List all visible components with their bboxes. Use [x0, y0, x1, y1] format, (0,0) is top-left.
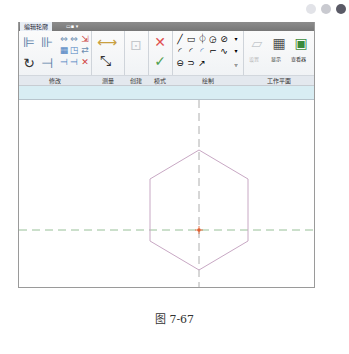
array-icon[interactable]: ▦ [59, 45, 69, 55]
panel-measure: ⟷ ⤡ 测量 [91, 31, 125, 85]
ellipse-icon[interactable]: ⊖ [175, 58, 185, 68]
workplane-viewer-icon[interactable]: ▣ [293, 35, 309, 51]
unpin-icon[interactable]: ⇄ [80, 45, 90, 55]
window-dot-dark[interactable] [336, 4, 346, 14]
set-workplane-label: 设置 [249, 55, 259, 62]
ribbon-tab-bar: 编辑轮廓 ▭▪ ▾ [19, 22, 314, 31]
rotate-icon[interactable]: ↻ [21, 55, 37, 71]
pick-lines-icon[interactable]: ↗ [197, 58, 207, 68]
panel-label-create: 创建 [124, 75, 148, 85]
panel-create: ⊡ 创建 [124, 31, 149, 85]
panel-label-workplane: 工作平面 [243, 75, 314, 85]
workplane-viewer-label: 查看器 [291, 55, 306, 62]
window-dot-light[interactable] [306, 4, 316, 14]
circumscribed-polygon-icon[interactable]: ◶ [208, 34, 218, 44]
panel-label-modify: 修改 [19, 75, 91, 85]
aligned-dimension-icon[interactable]: ⟷ [97, 34, 113, 50]
set-workplane-icon[interactable]: ▱ [249, 35, 265, 51]
move-icon[interactable]: ⇔ [69, 34, 79, 44]
tab-edit-profile[interactable]: 编辑轮廓 [20, 22, 52, 31]
inscribed-polygon-icon[interactable]: ⏀ [197, 34, 207, 44]
panel-modify: ⊫ ⊪ ↻ ⊣ ⇔ ⇔ ⇲ ▦ ◳ ⇄ ⊣ ⊣ ✕ 修改 [19, 31, 92, 85]
copy-icon[interactable]: ⇔ [59, 34, 69, 44]
trim-icon[interactable]: ⊣ [39, 55, 55, 71]
circle-icon[interactable]: ⊘ [219, 34, 229, 44]
sketch-drawing [19, 100, 314, 287]
scale-icon[interactable]: ◳ [69, 45, 79, 55]
panel-mode: ✕ ✓ 模式 [148, 31, 173, 85]
rectangle-icon[interactable]: ▭ [186, 34, 196, 44]
window-controls [306, 4, 346, 14]
tab-minimize-toggle[interactable]: ▭▪ ▾ [63, 23, 81, 30]
panel-label-draw: 绘制 [172, 75, 243, 85]
draw-more-row1-icon[interactable]: ▾ [231, 34, 241, 44]
line-icon[interactable]: ╱ [175, 34, 185, 44]
tangent-arc-icon[interactable]: ◜ [197, 46, 207, 56]
panel-workplane: ▱ 设置 ▦ 显示 ▣ 查看器 工作平面 [243, 31, 314, 85]
fillet-arc-icon[interactable]: ⌐ [208, 46, 218, 56]
ribbon: ⊫ ⊪ ↻ ⊣ ⇔ ⇔ ⇲ ▦ ◳ ⇄ ⊣ ⊣ ✕ 修改 ⟷ ⤡ 测量 ⊡ 创建 [19, 31, 314, 86]
start-end-arc-icon[interactable]: ◜ [175, 46, 185, 56]
partial-ellipse-icon[interactable]: ⊃ [186, 58, 196, 68]
center-arc-icon[interactable]: ◜ [186, 46, 196, 56]
delete-icon[interactable]: ✕ [80, 57, 90, 67]
finish-edit-icon[interactable]: ✓ [152, 53, 168, 69]
cancel-edit-icon[interactable]: ✕ [152, 34, 168, 50]
split-gap-icon[interactable]: ⊣ [69, 57, 79, 67]
align-icon[interactable]: ⊫ [21, 34, 37, 50]
create-group-icon[interactable]: ⊡ [128, 37, 144, 53]
pin-icon[interactable]: ⇲ [80, 34, 90, 44]
show-workplane-label: 显示 [271, 55, 281, 62]
window-dot-mid[interactable] [321, 4, 331, 14]
panel-label-mode: 模式 [148, 75, 172, 85]
draw-panel-expand-icon[interactable]: ▿ [231, 60, 241, 70]
show-workplane-icon[interactable]: ▦ [271, 35, 287, 51]
revit-window: 编辑轮廓 ▭▪ ▾ ⊫ ⊪ ↻ ⊣ ⇔ ⇔ ⇲ ▦ ◳ ⇄ ⊣ ⊣ ✕ 修改 ⟷… [18, 22, 315, 288]
figure-caption: 图 7-67 [0, 310, 349, 326]
split-icon[interactable]: ⊣ [59, 57, 69, 67]
options-bar [19, 86, 314, 100]
panel-draw: ╱ ▭ ⏀ ◶ ⊘ ▾ ◜ ◜ ◜ ⌐ ∿ ▾ ⊖ ⊃ ↗ ▿ 绘制 [172, 31, 244, 85]
offset-icon[interactable]: ⊪ [39, 34, 55, 50]
spline-icon[interactable]: ∿ [219, 46, 229, 56]
draw-more-row2-icon[interactable]: ▾ [231, 46, 241, 56]
measure-distance-icon[interactable]: ⤡ [97, 53, 113, 69]
panel-label-measure: 测量 [91, 75, 124, 85]
drawing-canvas[interactable] [19, 100, 314, 287]
